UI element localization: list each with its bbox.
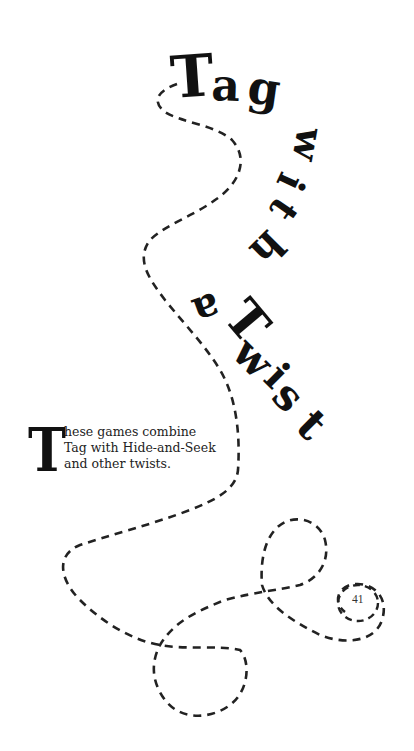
title-letter: w [283, 123, 333, 165]
title-letter: g [244, 59, 283, 117]
title-letter: a [211, 59, 241, 111]
drop-cap: T [28, 424, 57, 476]
dashed-path-decoration [63, 84, 384, 716]
decorative-artwork: T a g w i t h a T w i s t [0, 0, 414, 751]
intro-paragraph: T hese games combine Tag with Hide-and-S… [28, 424, 228, 476]
title-letter: h [241, 222, 295, 276]
title-letter: t [260, 190, 307, 231]
title-tag-with-a-twist: T a g w i t h a T w i s t [168, 41, 338, 450]
book-page: T a g w i t h a T w i s t T hese games c… [0, 0, 414, 751]
title-letter: T [168, 41, 216, 112]
page-number: 41 [352, 593, 364, 605]
